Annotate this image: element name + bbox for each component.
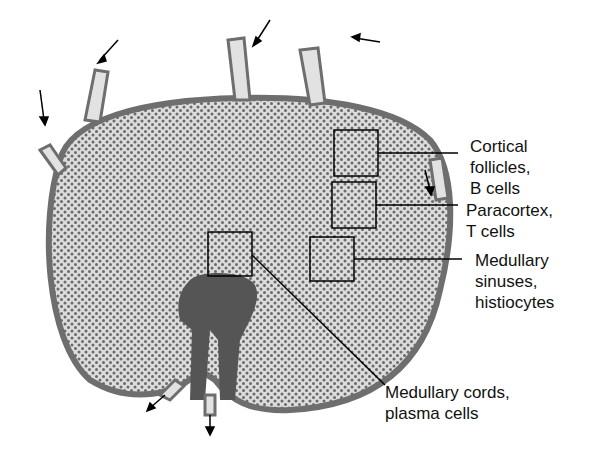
efferent-vessels [160, 380, 215, 415]
label-cortical-follicles: Cortical follicles, B cells [470, 136, 530, 199]
lymph-node-body [49, 98, 450, 410]
label-medullary-sinuses: Medullary sinuses, histiocytes [475, 250, 554, 313]
label-medullary-cords: Medullary cords, plasma cells [385, 382, 510, 424]
label-paracortex: Paracortex, T cells [466, 200, 553, 242]
